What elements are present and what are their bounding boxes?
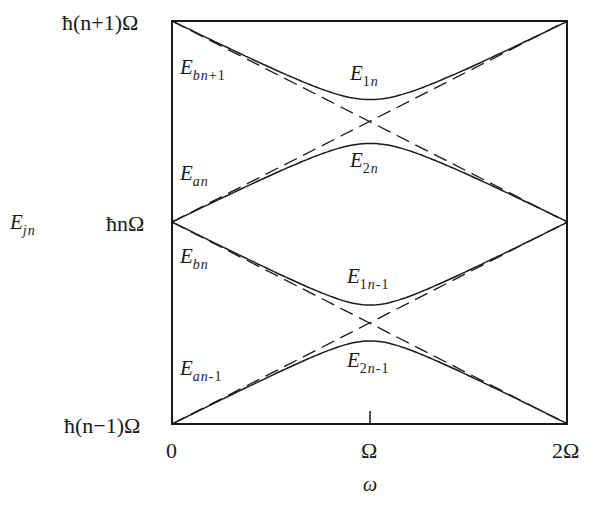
curve-E-1n-1 (172, 222, 567, 305)
label-sub: n (368, 277, 376, 292)
x-axis-label: ω (363, 474, 377, 494)
y-axis-label: Ejn (10, 212, 36, 233)
label-E-bn+1: Ebn+1 (180, 57, 226, 78)
label-sub-num: 1 (360, 277, 368, 292)
label-main: E (180, 244, 193, 268)
label-E-an: Ean (180, 163, 209, 184)
x-tick-omega: Ω (361, 440, 377, 462)
y-axis-label-main: E (10, 210, 23, 234)
label-sub: n (371, 74, 379, 89)
label-E-2n: E2n (350, 150, 379, 171)
y-axis-label-sub: jn (23, 223, 36, 238)
label-main: E (180, 55, 193, 79)
label-sub-num: 2 (360, 361, 368, 376)
label-E-an-1: Ean-1 (180, 358, 223, 379)
label-sub-num: 1 (363, 74, 371, 89)
y-tick-mid: ħnΩ (106, 213, 144, 235)
label-sub: bn (193, 68, 209, 83)
label-sub-num: 2 (363, 161, 371, 176)
label-E-2n-1: E2n-1 (347, 350, 390, 371)
label-sub-rest: -1 (376, 277, 390, 292)
x-tick-0: 0 (166, 440, 177, 462)
label-main: E (180, 161, 193, 185)
label-sub-rest: -1 (209, 369, 223, 384)
label-sub: n (371, 161, 379, 176)
label-main: E (350, 61, 363, 85)
y-tick-top: ħ(n+1)Ω (62, 12, 138, 34)
y-tick-bottom: ħ(n−1)Ω (64, 415, 140, 437)
label-sub: an (193, 174, 209, 189)
label-E-1n-1: E1n-1 (347, 266, 390, 287)
label-E-bn: Ebn (180, 246, 209, 267)
label-sub-rest: -1 (376, 361, 390, 376)
label-sub: an (193, 369, 209, 384)
label-main: E (347, 264, 360, 288)
label-E-1n: E1n (350, 63, 379, 84)
label-sub-rest: +1 (209, 68, 226, 83)
label-main: E (180, 356, 193, 380)
label-main: E (350, 148, 363, 172)
label-sub: n (368, 361, 376, 376)
x-tick-2omega: 2Ω (552, 440, 579, 462)
label-main: E (347, 348, 360, 372)
label-sub: bn (193, 257, 209, 272)
